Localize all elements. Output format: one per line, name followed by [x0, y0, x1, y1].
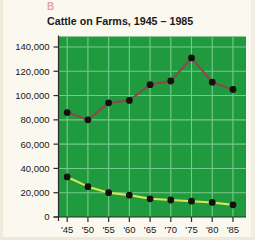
data-point-marker: [126, 192, 133, 199]
data-point-marker: [167, 197, 174, 204]
data-point-marker: [85, 116, 92, 123]
data-point-marker: [209, 199, 216, 206]
data-point-marker: [209, 79, 216, 86]
figure-panel: B Cattle on Farms, 1945 – 1985 020,00040…: [0, 0, 255, 240]
line-chart-svg: 020,00040,00060,00080,000100,000120,0001…: [0, 0, 255, 240]
y-tick-label: 100,000: [15, 90, 49, 101]
data-point-marker: [147, 195, 154, 202]
x-tick-label: '75: [185, 224, 197, 235]
data-point-marker: [85, 183, 92, 190]
y-tick-label: 140,000: [15, 41, 49, 52]
y-tick-label: 0: [44, 211, 49, 222]
x-tick-label: '70: [165, 224, 177, 235]
plot-background: [59, 37, 247, 218]
data-point-marker: [188, 198, 195, 205]
x-tick-label: '60: [123, 224, 135, 235]
data-point-marker: [64, 174, 71, 181]
data-point-marker: [126, 97, 133, 104]
x-tick-label: '80: [206, 224, 218, 235]
chart-plot-area: 020,00040,00060,00080,000100,000120,0001…: [0, 0, 255, 240]
x-tick-label: '55: [102, 224, 114, 235]
x-axis-tick-labels: '45'50'55'60'65'70'75'80'85: [61, 224, 239, 235]
x-tick-label: '85: [227, 224, 239, 235]
data-point-marker: [230, 86, 237, 93]
y-tick-label: 40,000: [20, 163, 49, 174]
x-tick-label: '45: [61, 224, 73, 235]
data-point-marker: [230, 201, 237, 208]
y-tick-label: 60,000: [20, 139, 49, 150]
plot-background-group: [59, 37, 247, 218]
y-tick-label: 80,000: [20, 114, 49, 125]
data-point-marker: [105, 99, 112, 106]
data-point-marker: [64, 109, 71, 116]
data-point-marker: [147, 81, 154, 88]
data-point-marker: [167, 78, 174, 85]
x-tick-label: '50: [82, 224, 94, 235]
y-tick-label: 120,000: [15, 66, 49, 77]
data-point-marker: [188, 55, 195, 62]
y-tick-label: 20,000: [20, 187, 49, 198]
x-tick-label: '65: [144, 224, 156, 235]
data-point-marker: [105, 189, 112, 196]
y-axis-tick-labels: 020,00040,00060,00080,000100,000120,0001…: [15, 41, 49, 222]
